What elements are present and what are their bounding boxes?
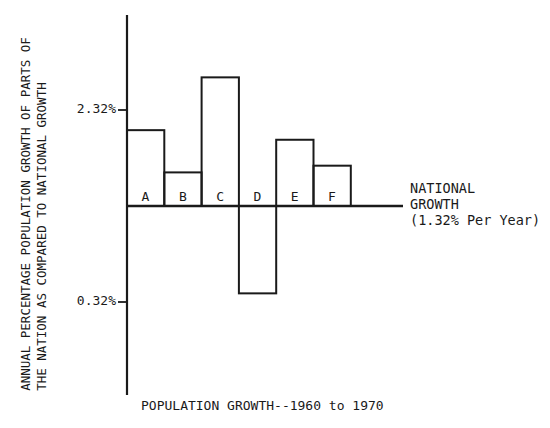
bar-label-d: D (239, 189, 275, 204)
bar-label-a: A (128, 189, 164, 204)
y-tick-label: 0.32% (56, 293, 116, 308)
y-ticks (118, 110, 127, 302)
bar-label-c: C (202, 189, 238, 204)
bar-d (239, 206, 276, 293)
bar-c (202, 77, 239, 206)
baseline-label-line-3: (1.32% Per Year) (410, 212, 540, 228)
bars (127, 77, 351, 293)
baseline-label-line-1: NATIONAL (410, 180, 540, 196)
baseline-label-line-2: GROWTH (410, 196, 540, 212)
y-axis-title-line-1: ANNUAL PERCENTAGE POPULATION GROWTH OF P… (18, 37, 34, 391)
x-axis-title: POPULATION GROWTH--1960 to 1970 (141, 398, 384, 413)
baseline-label: NATIONAL GROWTH (1.32% Per Year) (410, 180, 540, 228)
y-axis-title-line-2: THE NATION AS COMPARED TO NATIONAL GROWT… (34, 37, 50, 391)
bar-label-f: F (314, 189, 350, 204)
population-growth-chart: ANNUAL PERCENTAGE POPULATION GROWTH OF P… (0, 0, 550, 428)
y-tick-label: 2.32% (56, 101, 116, 116)
bar-label-b: B (165, 189, 201, 204)
bar-label-e: E (277, 189, 313, 204)
